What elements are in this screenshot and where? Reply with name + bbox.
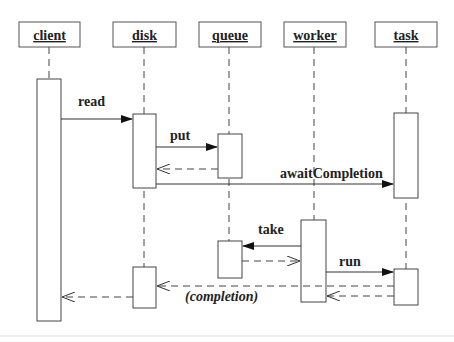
svg-text:put: put — [170, 128, 191, 143]
svg-text:awaitCompletion: awaitCompletion — [280, 166, 383, 181]
message-read: read — [61, 94, 132, 119]
object-label: queue — [212, 28, 248, 43]
message-put: put — [156, 128, 217, 147]
message-take: take — [243, 222, 301, 246]
svg-text:take: take — [258, 222, 284, 237]
object-label: client — [33, 28, 66, 43]
svg-text:(completion): (completion) — [185, 289, 258, 305]
object-label: disk — [132, 28, 157, 43]
svg-text:run: run — [339, 254, 361, 269]
object-label: worker — [293, 28, 337, 43]
svg-text:read: read — [78, 94, 105, 109]
object-worker: worker — [284, 22, 346, 47]
object-task: task — [375, 22, 437, 47]
sequence-diagram: client disk queue worker task read — [0, 0, 454, 342]
message-completion: (completion) — [157, 286, 394, 305]
message-run: run — [326, 254, 393, 272]
activations — [37, 79, 418, 321]
object-client: client — [19, 22, 80, 47]
object-queue: queue — [199, 22, 261, 47]
object-disk: disk — [113, 22, 176, 47]
object-label: task — [394, 28, 419, 43]
